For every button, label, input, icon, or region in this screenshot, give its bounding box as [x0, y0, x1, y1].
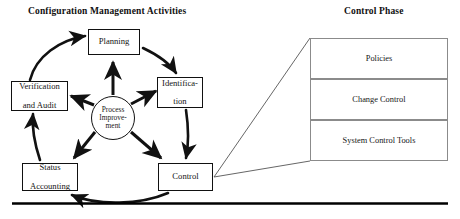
- node-status-accounting[interactable]: Status Accounting: [22, 163, 78, 191]
- node-status-line1: Status: [29, 163, 71, 172]
- arrow-control-to-status: [72, 193, 168, 203]
- node-process-improvement-label: Process Improve- ment: [99, 106, 127, 129]
- node-status-accounting-label: Status Accounting: [28, 163, 72, 191]
- diagram-root: Configuration Management Activities Cont…: [0, 0, 460, 219]
- left-panel-title: Configuration Management Activities: [28, 6, 186, 16]
- node-identification[interactable]: Identifica- tion: [157, 77, 203, 108]
- node-control-label: Control: [171, 172, 199, 181]
- node-verification-line1: Verification: [18, 82, 61, 91]
- node-verification-line2: and Audit: [18, 101, 61, 110]
- node-identification-line1: Identifica-: [161, 79, 199, 88]
- arrow-process-to-verification: [71, 96, 94, 105]
- control-phase-row-system-control-tools[interactable]: System Control Tools: [310, 120, 448, 161]
- arrow-process-to-identification: [131, 91, 156, 104]
- process-line3: ment: [106, 121, 121, 130]
- control-phase-row-system-control-tools-label: System Control Tools: [343, 136, 416, 145]
- node-control[interactable]: Control: [158, 163, 213, 191]
- node-verification-and-audit[interactable]: Verification and Audit: [11, 81, 68, 111]
- arrow-process-to-status: [74, 132, 95, 158]
- control-phase-row-policies-label: Policies: [366, 54, 393, 63]
- control-phase-row-policies[interactable]: Policies: [310, 38, 448, 79]
- node-identification-label: Identifica- tion: [160, 79, 200, 107]
- node-planning-label: Planning: [98, 37, 131, 46]
- arrow-planning-to-identification: [143, 48, 176, 73]
- node-process-improvement[interactable]: Process Improve- ment: [91, 96, 135, 140]
- arrow-status-to-verification: [33, 114, 40, 160]
- callout-lines: [214, 38, 310, 177]
- right-panel-title: Control Phase: [344, 6, 404, 16]
- control-phase-row-change-control-label: Change Control: [352, 95, 405, 104]
- control-phase-row-change-control[interactable]: Change Control: [310, 79, 448, 120]
- callout-line-top: [214, 38, 310, 177]
- arrow-process-to-control: [131, 132, 161, 158]
- node-verification-and-audit-label: Verification and Audit: [17, 82, 62, 110]
- node-identification-line2: tion: [161, 97, 199, 106]
- arrow-identification-to-control: [186, 110, 188, 158]
- node-planning[interactable]: Planning: [88, 29, 140, 55]
- callout-line-bottom: [214, 161, 310, 177]
- arrow-verification-to-planning: [30, 36, 85, 80]
- node-status-line2: Accounting: [29, 182, 71, 191]
